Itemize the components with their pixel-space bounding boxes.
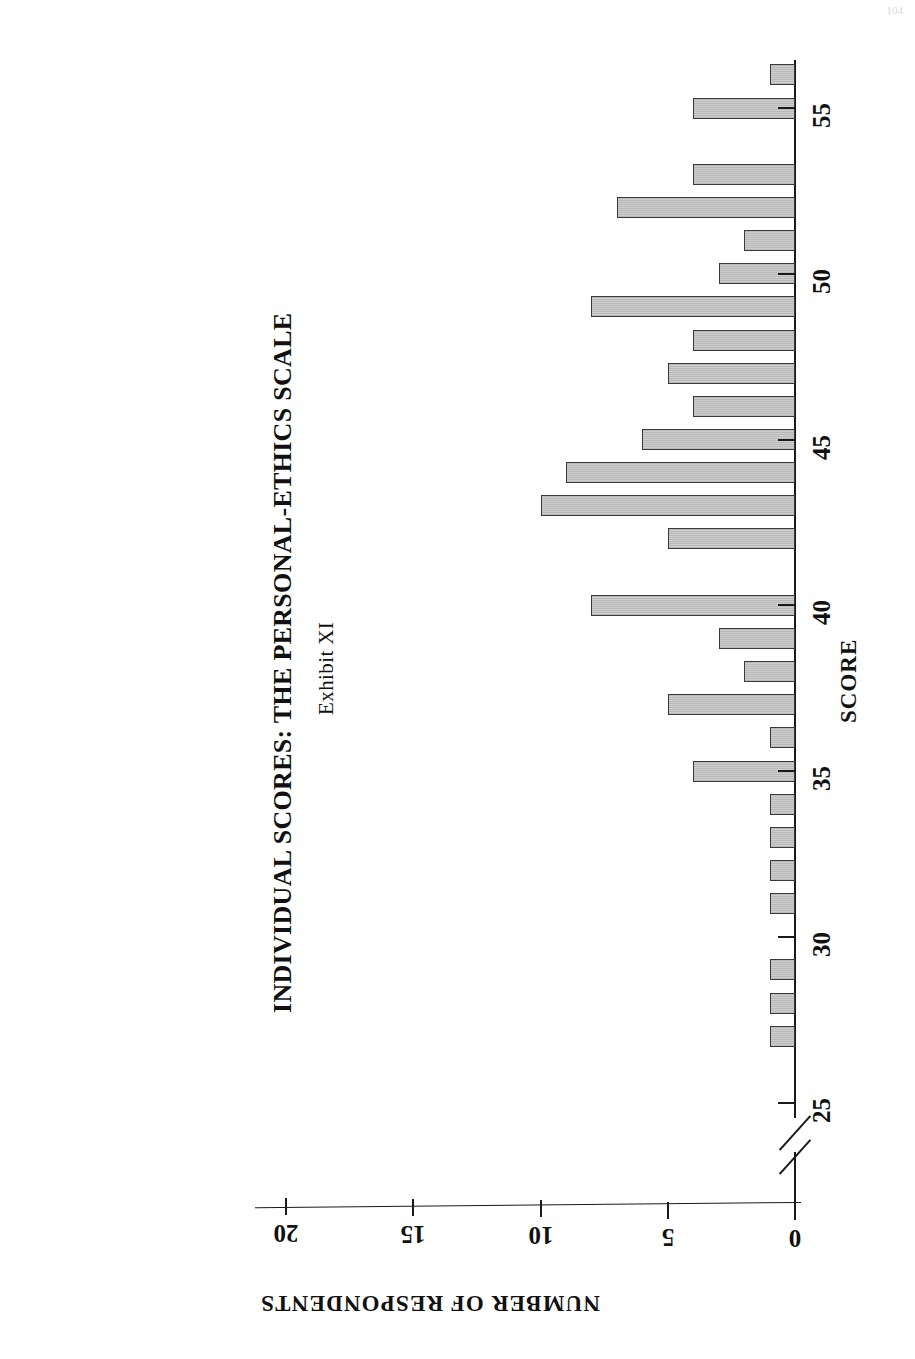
score-tick xyxy=(778,273,796,275)
score-tick-label: 55 xyxy=(808,103,836,128)
bar xyxy=(668,694,795,715)
respondent-tick-label: 5 xyxy=(648,1223,688,1251)
respondent-tick-label: 0 xyxy=(775,1224,815,1252)
bar xyxy=(566,462,795,483)
bar xyxy=(744,230,795,251)
chart-page: 104 Exhibit XI INDIVIDUAL SCORES: THE PE… xyxy=(0,0,915,1359)
respondent-tick xyxy=(285,1198,287,1215)
respondent-tick xyxy=(540,1200,542,1217)
score-axis-line-lower xyxy=(794,1152,796,1204)
score-tick xyxy=(778,1102,796,1104)
score-tick-label: 30 xyxy=(808,932,836,957)
score-tick xyxy=(778,439,796,441)
bar xyxy=(770,727,795,748)
score-tick xyxy=(778,107,796,109)
score-tick-label: 35 xyxy=(808,766,836,791)
bar xyxy=(541,495,796,516)
score-tick-label: 40 xyxy=(808,600,836,625)
respondent-tick xyxy=(667,1202,669,1219)
bar xyxy=(770,64,795,85)
bar xyxy=(770,794,795,815)
bar xyxy=(668,528,795,549)
bar xyxy=(719,628,795,649)
bar xyxy=(617,197,795,218)
score-tick xyxy=(778,936,796,938)
bar xyxy=(693,164,795,185)
bar xyxy=(591,296,795,317)
bar xyxy=(770,827,795,848)
bar xyxy=(770,893,795,914)
respondent-tick-label: 10 xyxy=(521,1221,561,1249)
score-tick xyxy=(778,770,796,772)
bar xyxy=(668,363,795,384)
score-tick-label: 50 xyxy=(808,269,836,294)
bar xyxy=(770,860,795,881)
score-tick-label: 45 xyxy=(808,435,836,460)
bar xyxy=(693,330,795,351)
bar xyxy=(770,993,795,1014)
bar-chart-plot: 25303540455055 05101520 xyxy=(0,0,915,1359)
score-axis-title: SCORE xyxy=(836,639,862,723)
respondent-tick xyxy=(794,1203,796,1220)
respondent-tick xyxy=(412,1199,414,1216)
bar xyxy=(770,1026,795,1047)
score-tick-label: 25 xyxy=(808,1098,836,1123)
bar xyxy=(642,429,795,450)
bar xyxy=(770,959,795,980)
respondent-tick-label: 20 xyxy=(266,1219,306,1247)
respondents-axis-line xyxy=(255,1202,801,1208)
respondent-tick-label: 15 xyxy=(393,1220,433,1248)
bar xyxy=(591,595,795,616)
bar xyxy=(693,396,795,417)
respondents-axis-title: NUMBER OF RESPONDENTS xyxy=(80,1290,780,1316)
score-tick xyxy=(778,604,796,606)
bar xyxy=(744,661,795,682)
